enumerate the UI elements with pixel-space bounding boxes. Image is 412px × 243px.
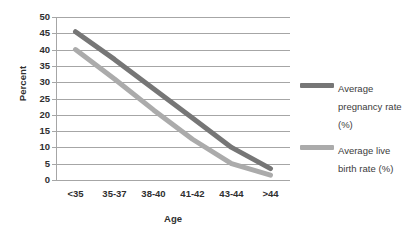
x-axis-tick-label: >44 <box>248 188 294 199</box>
y-axis-tick-mark <box>52 33 56 34</box>
x-axis-title: Age <box>56 213 290 224</box>
y-axis-tick-mark <box>52 66 56 67</box>
series-line-1 <box>76 32 271 169</box>
y-axis-tick-mark <box>52 115 56 116</box>
y-axis-tick-label: 50 <box>20 12 50 22</box>
y-axis-tick-label: 40 <box>20 45 50 55</box>
series-container <box>56 17 290 180</box>
chart-legend: Average pregnancy rate (%)Average live b… <box>300 78 410 184</box>
y-axis-tick-label: 30 <box>20 77 50 87</box>
series-line-2 <box>76 50 271 176</box>
y-axis-tick-mark <box>52 180 56 181</box>
y-axis-tick-label: 35 <box>20 61 50 71</box>
y-axis-tick-mark <box>52 17 56 18</box>
plot-area <box>56 17 290 180</box>
line-chart: Percent 50454035302520151050 <3535-3738-… <box>0 0 412 243</box>
y-axis-tick-mark <box>52 99 56 100</box>
y-axis-tick-label: 10 <box>20 142 50 152</box>
legend-item[interactable]: Average pregnancy rate (%) <box>300 78 410 132</box>
y-axis-tick-mark <box>52 50 56 51</box>
y-axis-tick-labels: 50454035302520151050 <box>20 10 50 186</box>
y-axis-tick-mark <box>52 164 56 165</box>
legend-item-label: Average live birth rate (%) <box>338 145 393 174</box>
y-axis-tick-label: 5 <box>20 159 50 169</box>
x-axis-tick-labels: <3535-3738-4041-4243-44>44 <box>56 188 290 202</box>
y-axis-tick-mark <box>52 147 56 148</box>
y-axis-tick-mark <box>52 131 56 132</box>
legend-color-swatch <box>300 145 334 150</box>
y-axis-tick-label: 20 <box>20 110 50 120</box>
legend-color-swatch <box>300 83 334 88</box>
legend-item-label: Average pregnancy rate (%) <box>338 83 402 130</box>
y-axis-tick-label: 0 <box>20 175 50 185</box>
y-axis-tick-label: 15 <box>20 126 50 136</box>
y-axis-tick-mark <box>52 82 56 83</box>
gridline <box>56 180 290 181</box>
legend-item[interactable]: Average live birth rate (%) <box>300 140 410 176</box>
y-axis-tick-label: 25 <box>20 94 50 104</box>
y-axis-tick-label: 45 <box>20 28 50 38</box>
